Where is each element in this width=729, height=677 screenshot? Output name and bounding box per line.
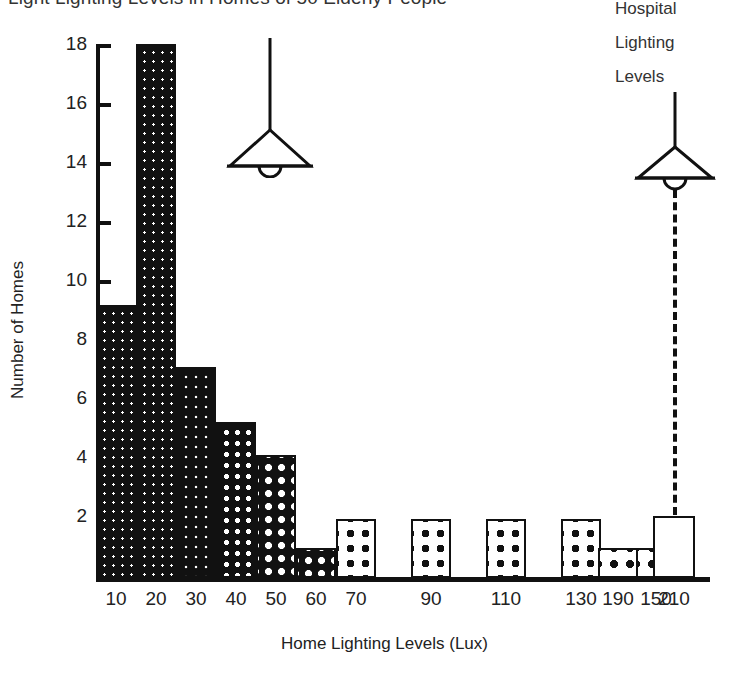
y-tick-label-6: 6 bbox=[76, 387, 87, 409]
table-row bbox=[336, 519, 376, 578]
x-tick-label-40: 40 bbox=[225, 588, 246, 610]
x-tick-label-10: 10 bbox=[105, 588, 126, 610]
x-tick-label-190: 190 bbox=[602, 588, 634, 610]
y-tick-label-2: 2 bbox=[76, 505, 87, 527]
y-tick-label-14: 14 bbox=[66, 151, 87, 173]
plot-area: 18 16 14 12 10 8 6 4 2 bbox=[96, 44, 710, 578]
table-row bbox=[486, 519, 526, 578]
chart-title: Light Lighting Levels in Homes of 50 Eld… bbox=[8, 0, 447, 9]
y-tick-label-4: 4 bbox=[76, 446, 87, 468]
y-tick-12: 12 bbox=[98, 221, 111, 225]
y-tick-label-18: 18 bbox=[66, 33, 87, 55]
x-axis-title: Home Lighting Levels (Lux) bbox=[0, 634, 729, 654]
y-tick-10: 10 bbox=[98, 280, 111, 284]
y-tick-label-16: 16 bbox=[66, 92, 87, 114]
annotation-line-1: Hospital bbox=[615, 0, 676, 26]
x-tick-label-210: 210 bbox=[658, 588, 690, 610]
x-tick-label-90: 90 bbox=[420, 588, 441, 610]
x-axis-title-text: Home Lighting Levels (Lux) bbox=[241, 634, 488, 653]
y-tick-18: 18 bbox=[98, 44, 111, 48]
table-row bbox=[136, 44, 176, 578]
x-tick-label-60: 60 bbox=[305, 588, 326, 610]
y-tick-14: 14 bbox=[98, 162, 111, 166]
y-axis-title: Number of Homes bbox=[8, 261, 28, 399]
y-tick-label-12: 12 bbox=[66, 210, 87, 232]
table-row bbox=[96, 305, 136, 578]
x-tick-label-70: 70 bbox=[345, 588, 366, 610]
bar-190 bbox=[598, 548, 638, 578]
table-row bbox=[176, 367, 216, 578]
x-tick-label-20: 20 bbox=[145, 588, 166, 610]
table-row bbox=[296, 548, 336, 578]
x-tick-label-50: 50 bbox=[265, 588, 286, 610]
x-tick-label-110: 110 bbox=[491, 588, 521, 610]
y-tick-16: 16 bbox=[98, 103, 111, 107]
histogram-figure: Light Lighting Levels in Homes of 50 Eld… bbox=[0, 0, 729, 677]
table-row bbox=[561, 519, 601, 578]
x-tick-label-30: 30 bbox=[185, 588, 206, 610]
table-row bbox=[216, 422, 256, 578]
x-tick-label-130: 130 bbox=[565, 588, 597, 610]
table-row bbox=[256, 455, 296, 578]
table-row bbox=[411, 519, 451, 578]
bar-210 bbox=[653, 516, 695, 578]
y-tick-label-10: 10 bbox=[66, 269, 87, 291]
y-tick-label-8: 8 bbox=[76, 328, 87, 350]
